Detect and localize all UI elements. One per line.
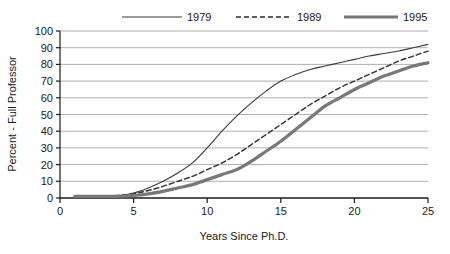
x-tick-label-10: 10 (201, 205, 213, 217)
y-tick-label-50: 50 (41, 109, 53, 121)
x-tick-label-20: 20 (348, 205, 360, 217)
y-tick-label-90: 90 (41, 42, 53, 54)
series-line-1989 (75, 51, 428, 196)
x-tick-label-5: 5 (131, 205, 137, 217)
x-tick-label-15: 15 (275, 205, 287, 217)
y-tick-label-10: 10 (41, 175, 53, 187)
y-tick-label-20: 20 (41, 159, 53, 171)
data-series (75, 44, 428, 196)
x-axis-ticks: 0510152025 (57, 198, 434, 217)
y-axis-ticks: 0102030405060708090100 (35, 25, 60, 204)
legend-label-1989: 1989 (297, 11, 321, 23)
y-tick-label-80: 80 (41, 58, 53, 70)
gridlines (60, 31, 428, 198)
chart-legend: 197919891995 (122, 11, 427, 23)
y-tick-label-70: 70 (41, 75, 53, 87)
x-tick-label-25: 25 (422, 205, 434, 217)
legend-label-1979: 1979 (187, 11, 211, 23)
chart-container: 197919891995 0102030405060708090100 0510… (0, 0, 450, 254)
series-line-1979 (75, 44, 428, 196)
y-tick-label-40: 40 (41, 125, 53, 137)
y-tick-label-60: 60 (41, 92, 53, 104)
line-chart: 197919891995 0102030405060708090100 0510… (0, 0, 450, 254)
x-tick-label-0: 0 (57, 205, 63, 217)
y-tick-label-0: 0 (47, 192, 53, 204)
x-axis-title: Years Since Ph.D. (200, 230, 289, 242)
legend-label-1995: 1995 (403, 11, 427, 23)
y-axis-title: Percent - Full Professor (6, 56, 18, 172)
y-tick-label-30: 30 (41, 142, 53, 154)
y-tick-label-100: 100 (35, 25, 53, 37)
series-line-1995 (75, 63, 428, 197)
